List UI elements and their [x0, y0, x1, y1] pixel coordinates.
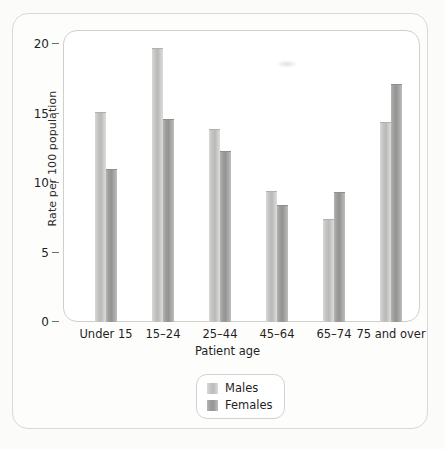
bar-males-2 [209, 129, 220, 323]
bar-females-3 [277, 205, 288, 322]
y-tick-mark-15 [52, 113, 59, 114]
bar-males-3 [266, 191, 277, 322]
x-axis-label-row: Patient age [0, 344, 445, 358]
x-tick-label-0: Under 15 [79, 327, 132, 341]
legend-swatch-males-icon [207, 383, 218, 394]
x-tick-label-1: 15–24 [145, 327, 180, 341]
bar-females-0 [106, 169, 117, 322]
x-tick-label-5: 75 and over [356, 327, 425, 341]
y-tick-20: 20 [0, 37, 63, 51]
legend-item-males: Males [207, 382, 258, 395]
y-tick-15: 15 [0, 107, 63, 121]
y-tick-label-10: 10 [34, 176, 49, 190]
y-tick-mark-10 [52, 182, 59, 183]
bar-males-4 [323, 219, 334, 322]
y-tick-label-0: 0 [41, 315, 49, 329]
bars-layer [63, 30, 420, 322]
bar-females-1 [163, 119, 174, 322]
legend-item-females: Females [207, 399, 273, 412]
y-tick-5: 5 [0, 246, 63, 260]
x-tick-label-3: 45–64 [259, 327, 294, 341]
y-tick-10: 10 [0, 176, 63, 190]
y-tick-0: 0 [0, 315, 63, 329]
legend: Males Females [196, 374, 285, 419]
x-tick-label-4: 65–74 [316, 327, 351, 341]
x-axis-label: Patient age [195, 344, 260, 358]
legend-label-females: Females [225, 399, 273, 412]
legend-swatch-females-icon [207, 400, 218, 411]
legend-label-males: Males [225, 382, 258, 395]
y-tick-mark-5 [52, 252, 59, 253]
y-axis-label: Rate per 100 population [46, 64, 59, 254]
y-tick-mark-0 [52, 321, 59, 322]
bar-females-2 [220, 151, 231, 322]
y-tick-label-5: 5 [41, 246, 49, 260]
chart-page: Rate per 100 population 0 5 10 15 20 Und… [0, 0, 445, 449]
bar-males-1 [152, 48, 163, 322]
y-tick-label-20: 20 [34, 37, 49, 51]
y-tick-mark-20 [52, 43, 59, 44]
x-tick-label-2: 25–44 [202, 327, 237, 341]
bar-males-0 [95, 112, 106, 322]
y-tick-label-15: 15 [34, 107, 49, 121]
bar-females-5 [391, 84, 402, 322]
bar-males-5 [380, 122, 391, 322]
bar-females-4 [334, 192, 345, 322]
